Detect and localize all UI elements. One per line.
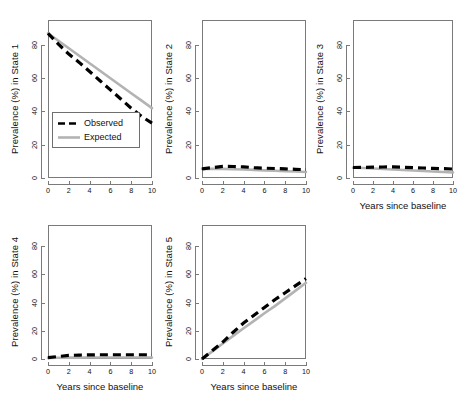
multi-panel-prevalence-figure: 0204060800246810Prevalence (%) in State … (0, 0, 461, 413)
panel-state-5: 0204060800246810Prevalence (%) in State … (0, 0, 461, 413)
observed-line-state-5 (202, 279, 306, 359)
series-layer-state-5 (0, 0, 461, 413)
